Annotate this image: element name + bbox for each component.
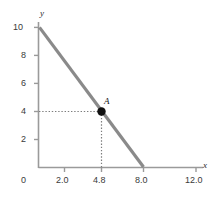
y-axis-title: y bbox=[40, 9, 44, 18]
x-tick-label-0: 0 bbox=[21, 176, 26, 185]
x-tick-label-12: 12.0 bbox=[185, 176, 203, 185]
y-tick-label-4: 4 bbox=[21, 107, 26, 116]
x-axis-title: x bbox=[203, 161, 207, 170]
y-tick-label-8: 8 bbox=[21, 51, 26, 60]
data-line-series-0 bbox=[40, 27, 144, 167]
x-tick-label-4-8: 4.8 bbox=[93, 176, 106, 185]
y-tick-label-6: 6 bbox=[21, 79, 26, 88]
data-point-label-a: A bbox=[104, 97, 110, 106]
x-tick-label-8: 8.0 bbox=[135, 176, 148, 185]
data-point-a bbox=[97, 107, 105, 115]
chart-container: 10 8 6 4 2 0 2.0 4.8 8.0 12.0 y x A bbox=[0, 0, 212, 203]
y-tick-label-2: 2 bbox=[21, 135, 26, 144]
x-tick-label-2: 2.0 bbox=[56, 176, 69, 185]
y-tick-label-10: 10 bbox=[13, 23, 23, 32]
